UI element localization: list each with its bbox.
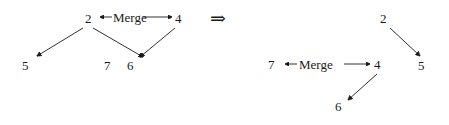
node-right-bottom-6: 6 bbox=[335, 100, 342, 113]
node-left-bottom-left-5: 5 bbox=[22, 59, 29, 72]
edge-left-2-to-5 bbox=[37, 28, 83, 56]
edge-right-2-to-5 bbox=[390, 28, 420, 56]
node-right-top-2: 2 bbox=[380, 12, 387, 25]
edge-right-4-to-6 bbox=[348, 74, 377, 100]
implies-arrow-icon: ⇒ bbox=[210, 9, 226, 28]
node-right-left-7: 7 bbox=[268, 58, 275, 71]
edge-left-4-to-6 bbox=[140, 28, 175, 57]
node-left-bottom-right-6: 6 bbox=[127, 59, 134, 72]
node-left-top-right-4: 4 bbox=[175, 12, 182, 25]
node-left-bottom-mid-7: 7 bbox=[104, 59, 111, 72]
node-right-right-5: 5 bbox=[418, 59, 425, 72]
node-left-top-left-2: 2 bbox=[85, 12, 92, 25]
edge-left-2-to-7 bbox=[93, 28, 143, 57]
edge-label-right-merge: Merge bbox=[299, 58, 333, 71]
diagram-canvas: 4 --> 4 --> 2 Merge 4 5 7 6 ⇒ 2 5 7 Merg… bbox=[0, 0, 449, 125]
node-right-center-4: 4 bbox=[374, 58, 381, 71]
edge-label-left-merge: Merge bbox=[113, 11, 147, 24]
